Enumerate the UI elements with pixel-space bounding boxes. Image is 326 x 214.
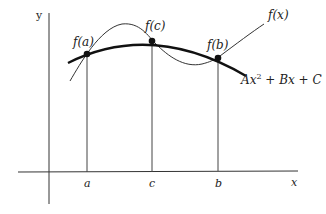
function-label: f(x) (267, 8, 289, 22)
y-axis-label: y (35, 9, 43, 22)
point-label-fc: f(c) (144, 19, 166, 33)
tick-label-c: c (149, 177, 155, 190)
point-fa (84, 51, 91, 58)
point-label-fa: f(a) (72, 35, 94, 49)
tick-label-b: b (215, 177, 222, 190)
function-curve (70, 24, 264, 81)
interpolation-diagram: y x a c b f(a) f(c) f(b) f(x) Ax2 + Bx +… (0, 0, 326, 214)
x-axis (18, 171, 298, 172)
x-axis-label: x (291, 176, 298, 189)
point-fc (149, 38, 156, 45)
tick-label-a: a (84, 177, 91, 190)
parabola-label: Ax2 + Bx + C (240, 72, 322, 87)
point-label-fb: f(b) (206, 38, 229, 52)
point-fb (215, 55, 222, 62)
